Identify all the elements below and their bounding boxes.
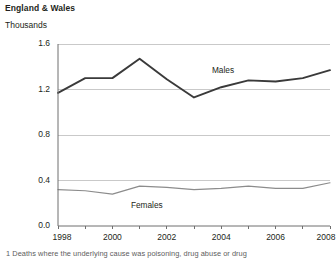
y-axis-tick-label: 1.2	[6, 84, 50, 94]
series-lines	[58, 59, 330, 194]
x-axis-tick-label: 2000	[92, 232, 132, 242]
series-line-females	[58, 183, 330, 194]
x-axis-tick-label: 2008	[306, 232, 336, 242]
plot-area	[58, 44, 330, 226]
page-title: England & Wales	[5, 3, 75, 13]
y-axis-tick-label: 0.0	[6, 220, 50, 230]
figure-caption: 1 Deaths where the underlying cause was …	[6, 249, 336, 258]
series-label-males: Males	[212, 65, 234, 75]
axis-units-label: Thousands	[5, 20, 47, 30]
series-line-males	[58, 59, 330, 98]
gridlines	[58, 44, 330, 226]
chart-canvas	[58, 44, 330, 226]
series-label-females: Females	[131, 200, 163, 210]
x-axis-tick-label: 2002	[147, 232, 187, 242]
x-axis-tick-marks	[58, 226, 330, 229]
y-axis-tick-label: 0.8	[6, 129, 50, 139]
x-axis-tick-label: 2006	[256, 232, 296, 242]
y-axis-tick-label: 1.6	[6, 38, 50, 48]
x-axis-tick-label: 2004	[201, 232, 241, 242]
y-axis-tick-label: 0.4	[6, 175, 50, 185]
x-axis-tick-label: 1998	[42, 232, 82, 242]
chart-figure: England & Wales Thousands 0.00.40.81.21.…	[0, 0, 336, 260]
